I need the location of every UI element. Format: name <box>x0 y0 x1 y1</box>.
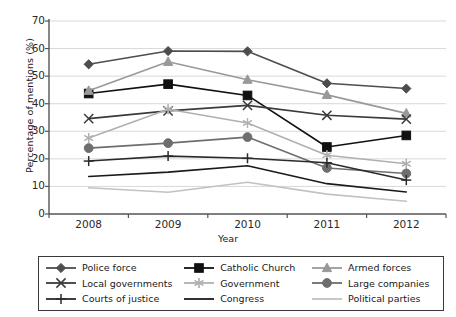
data-point <box>84 133 93 143</box>
legend-item[interactable]: Catholic Church <box>183 260 311 276</box>
plot-canvas <box>0 0 456 250</box>
series-armed-forces <box>84 57 411 117</box>
legend-label: Catholic Church <box>220 263 295 273</box>
data-point <box>84 60 93 69</box>
x-axis-tick-label: 2012 <box>376 218 436 230</box>
x-axis-tick-label: 2008 <box>59 218 119 230</box>
data-point <box>84 156 94 166</box>
legend-marker-none-icon <box>183 293 215 305</box>
data-point <box>56 263 65 272</box>
legend-label: Police force <box>82 263 137 273</box>
legend-label: Political parties <box>348 294 420 304</box>
legend-marker-diamond-icon <box>45 262 77 274</box>
data-point <box>243 91 252 100</box>
data-point <box>322 79 331 88</box>
plot-area: Percentage of mentions (%) 0102030405060… <box>0 0 456 250</box>
data-point <box>164 46 173 55</box>
legend-item[interactable]: Congress <box>183 291 311 307</box>
data-point <box>56 294 66 304</box>
series-courts-of-justice <box>84 151 412 185</box>
line-chart: Percentage of mentions (%) 0102030405060… <box>0 0 456 317</box>
legend-item[interactable]: Police force <box>45 260 183 276</box>
data-point <box>402 84 411 93</box>
data-point <box>164 57 173 66</box>
data-point <box>243 133 252 142</box>
x-axis-tick-label: 2009 <box>138 218 198 230</box>
legend-label: Courts of justice <box>82 294 159 304</box>
x-axis-tick-label: 2010 <box>218 218 278 230</box>
data-point <box>164 139 173 148</box>
data-point <box>323 279 332 288</box>
legend-item[interactable]: Courts of justice <box>45 291 183 307</box>
series-political-parties <box>89 182 407 201</box>
legend-label: Local governments <box>82 279 173 289</box>
legend-item[interactable]: Government <box>183 276 311 292</box>
legend-item[interactable]: Political parties <box>311 291 439 307</box>
series-police-force <box>84 46 411 93</box>
series-line <box>89 105 407 119</box>
legend-label: Armed forces <box>348 263 411 273</box>
legend-marker-plus-icon <box>45 293 77 305</box>
x-axis-title: Year <box>0 233 456 244</box>
legend-marker-square-icon <box>183 262 215 274</box>
legend: Police forceCatholic ChurchArmed forcesL… <box>38 256 444 311</box>
legend-item[interactable]: Armed forces <box>311 260 439 276</box>
legend-marker-circle-icon <box>311 277 343 289</box>
data-point <box>195 264 204 273</box>
legend-marker-asterisk-icon <box>183 277 215 289</box>
legend-label: Congress <box>220 294 264 304</box>
data-point <box>163 151 173 161</box>
data-point <box>164 80 173 89</box>
legend-marker-x-icon <box>45 277 77 289</box>
legend-item[interactable]: Local governments <box>45 276 183 292</box>
data-point <box>84 144 93 153</box>
legend-marker-none-icon <box>311 293 343 305</box>
legend-label: Large companies <box>348 279 429 289</box>
legend-marker-triangle-icon <box>311 262 343 274</box>
data-point <box>402 131 411 140</box>
legend-label: Government <box>220 279 279 289</box>
data-point <box>323 143 332 152</box>
x-axis-tick-label: 2011 <box>297 218 357 230</box>
series-line <box>89 182 407 201</box>
data-point <box>243 153 253 163</box>
legend-item[interactable]: Large companies <box>311 276 439 292</box>
